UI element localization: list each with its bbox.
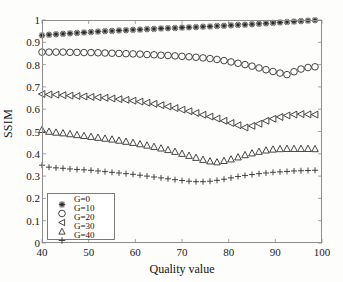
legend-label: G=40	[74, 231, 95, 240]
x-tick-label: 70	[177, 247, 188, 258]
x-axis-title: Quality value	[42, 262, 322, 277]
y-tick-label: 0.8	[14, 59, 40, 70]
legend: G=0G=10G=20G=30G=40	[47, 193, 115, 240]
x-tick-label: 90	[270, 247, 281, 258]
y-tick-label: 0.3	[14, 171, 40, 182]
legend-item-g40[interactable]: G=40	[50, 231, 114, 240]
y-axis-title: SSIM	[1, 94, 16, 154]
plus-marker-icon	[50, 231, 74, 240]
legend-marker	[59, 237, 66, 244]
x-tick-label: 40	[37, 247, 48, 258]
y-tick-label: 0.1	[14, 215, 40, 226]
x-axis-tick-labels: 405060708090100	[0, 247, 343, 263]
y-tick-label: 1	[14, 15, 40, 26]
chart-figure: 00.10.20.30.40.50.60.70.80.91 4050607080…	[0, 0, 343, 282]
x-tick-label: 100	[314, 247, 331, 258]
y-tick-label: 0.9	[14, 37, 40, 48]
triangle-up-marker-icon	[50, 222, 74, 231]
star-marker-icon	[50, 195, 74, 204]
y-tick-label: 0.2	[14, 193, 40, 204]
legend-items: G=0G=10G=20G=30G=40	[48, 194, 114, 240]
x-tick-label: 50	[83, 247, 94, 258]
circle-marker-icon	[50, 204, 74, 213]
x-tick-label: 80	[223, 247, 234, 258]
x-tick-label: 60	[130, 247, 141, 258]
y-tick-label: 0.6	[14, 104, 40, 115]
triangle-left-marker-icon	[50, 213, 74, 222]
y-tick-label: 0.7	[14, 81, 40, 92]
y-tick-label: 0.5	[14, 126, 40, 137]
y-tick-label: 0.4	[14, 148, 40, 159]
